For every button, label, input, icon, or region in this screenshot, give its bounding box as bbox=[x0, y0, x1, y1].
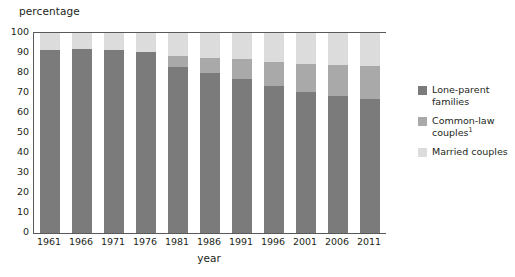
bar-column bbox=[130, 33, 162, 233]
stacked-bar-1976 bbox=[136, 33, 156, 233]
x-axis-tick-1986: 1986 bbox=[193, 236, 225, 252]
bar-segment bbox=[296, 33, 316, 64]
bar-column bbox=[194, 33, 226, 233]
bar-segment bbox=[232, 59, 252, 79]
bar-segment bbox=[264, 33, 284, 62]
y-axis-tick-labels: 1009080706050403020100 bbox=[0, 32, 29, 232]
bar-segment bbox=[360, 33, 380, 66]
x-axis-tick-2001: 2001 bbox=[289, 236, 321, 252]
stacked-bar-1991 bbox=[232, 33, 252, 233]
bar-segment bbox=[104, 33, 124, 50]
legend-swatch-married bbox=[418, 148, 427, 157]
y-axis-tick-90: 90 bbox=[3, 47, 29, 57]
bar-segment bbox=[168, 67, 188, 233]
bar-segment bbox=[168, 56, 188, 67]
legend-item: Married couples bbox=[418, 146, 513, 158]
legend-item: Common-law couples1 bbox=[418, 115, 513, 138]
bar-segment bbox=[328, 96, 348, 233]
x-axis-tick-2011: 2011 bbox=[353, 236, 385, 252]
stacked-bar-1971 bbox=[104, 33, 124, 233]
bar-column bbox=[354, 33, 386, 233]
y-axis-tick-50: 50 bbox=[3, 127, 29, 137]
x-axis-tick-labels: 1961196619711976198119861991199620012006… bbox=[33, 236, 385, 252]
x-axis-tick-1976: 1976 bbox=[129, 236, 161, 252]
bar-column bbox=[98, 33, 130, 233]
bar-group bbox=[34, 33, 386, 233]
bar-segment bbox=[136, 52, 156, 233]
bar-segment bbox=[360, 66, 380, 99]
legend-item: Lone-parent families bbox=[418, 84, 513, 107]
legend-item-label: Lone-parent families bbox=[432, 84, 513, 107]
x-axis-tick-1966: 1966 bbox=[65, 236, 97, 252]
legend-swatch-common-law bbox=[418, 117, 427, 126]
y-axis-tick-40: 40 bbox=[3, 147, 29, 157]
bar-segment bbox=[40, 33, 60, 50]
legend-swatch-lone-parent bbox=[418, 86, 427, 95]
bar-segment bbox=[40, 50, 60, 233]
y-axis-title: percentage bbox=[19, 5, 80, 17]
bar-segment bbox=[72, 49, 92, 233]
legend-item-label: Common-law couples1 bbox=[432, 115, 513, 138]
bar-segment bbox=[200, 73, 220, 233]
stacked-bar-2011 bbox=[360, 33, 380, 233]
bar-segment bbox=[104, 50, 124, 233]
x-axis-tick-1996: 1996 bbox=[257, 236, 289, 252]
bar-column bbox=[322, 33, 354, 233]
bar-segment bbox=[200, 33, 220, 58]
stacked-bar-1986 bbox=[200, 33, 220, 233]
bar-segment bbox=[296, 92, 316, 233]
stacked-bar-1961 bbox=[40, 33, 60, 233]
bar-column bbox=[290, 33, 322, 233]
x-axis-tick-2006: 2006 bbox=[321, 236, 353, 252]
bar-column bbox=[162, 33, 194, 233]
bar-segment bbox=[296, 64, 316, 92]
bar-segment bbox=[72, 33, 92, 49]
bar-column bbox=[66, 33, 98, 233]
x-axis-title: year bbox=[33, 252, 385, 264]
bar-segment bbox=[232, 33, 252, 59]
y-axis-tick-80: 80 bbox=[3, 67, 29, 77]
y-axis-tick-100: 100 bbox=[3, 27, 29, 37]
y-axis-tick-30: 30 bbox=[3, 167, 29, 177]
x-axis-tick-1961: 1961 bbox=[33, 236, 65, 252]
y-axis-tick-10: 10 bbox=[3, 207, 29, 217]
stacked-bar-1981 bbox=[168, 33, 188, 233]
bar-segment bbox=[328, 65, 348, 96]
bar-segment bbox=[360, 99, 380, 233]
bar-segment bbox=[264, 86, 284, 233]
plot-area bbox=[33, 32, 386, 234]
stacked-bar-1996 bbox=[264, 33, 284, 233]
x-axis-tick-1971: 1971 bbox=[97, 236, 129, 252]
legend-footnote-marker: 1 bbox=[469, 125, 473, 133]
bar-segment bbox=[168, 33, 188, 56]
bar-segment bbox=[264, 62, 284, 85]
bar-column bbox=[34, 33, 66, 233]
y-axis-tick-70: 70 bbox=[3, 87, 29, 97]
x-axis-tick-1991: 1991 bbox=[225, 236, 257, 252]
stacked-bar-1966 bbox=[72, 33, 92, 233]
y-axis-tick-60: 60 bbox=[3, 107, 29, 117]
stacked-bar-2006 bbox=[328, 33, 348, 233]
chart-container: percentage 1009080706050403020100 196119… bbox=[0, 0, 515, 277]
bar-segment bbox=[136, 33, 156, 52]
bar-segment bbox=[232, 79, 252, 233]
bar-segment bbox=[328, 33, 348, 65]
legend-item-label: Married couples bbox=[432, 146, 508, 158]
x-axis-tick-1981: 1981 bbox=[161, 236, 193, 252]
legend: Lone-parent familiesCommon-law couples1M… bbox=[418, 84, 513, 166]
bar-segment bbox=[200, 58, 220, 72]
stacked-bar-2001 bbox=[296, 33, 316, 233]
bar-column bbox=[258, 33, 290, 233]
y-axis-tick-0: 0 bbox=[3, 227, 29, 237]
y-axis-tick-20: 20 bbox=[3, 187, 29, 197]
bar-column bbox=[226, 33, 258, 233]
